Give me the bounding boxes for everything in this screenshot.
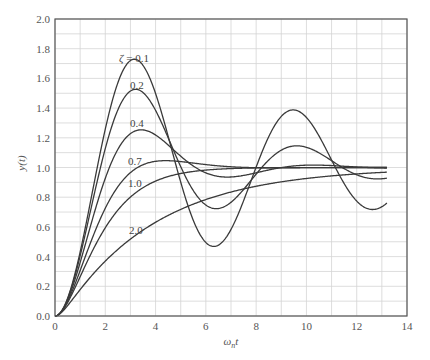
step-response-chart: 0.00.20.40.60.81.01.21.41.61.82.0 024681…	[0, 0, 430, 360]
x-tick-label: 8	[253, 320, 259, 332]
response-curve-zeta-0-1	[55, 59, 387, 316]
response-curve-zeta-0-7	[55, 161, 387, 316]
curve-label: 1.0	[128, 177, 142, 189]
x-tick-label: 12	[351, 320, 362, 332]
curve-label: 0.2	[130, 79, 144, 91]
y-tick-label: 1.6	[36, 72, 50, 84]
y-tick-labels: 0.00.20.40.60.81.01.21.41.61.82.0	[36, 13, 50, 322]
x-tick-label: 6	[203, 320, 209, 332]
y-tick-label: 0.6	[36, 221, 50, 233]
response-curve-zeta-0-4	[55, 130, 387, 316]
curve-label: 2.0	[129, 224, 143, 236]
x-tick-label: 14	[402, 320, 414, 332]
y-tick-label: 1.0	[36, 162, 50, 174]
x-tick-label: 0	[52, 320, 58, 332]
y-tick-label: 1.8	[36, 43, 50, 55]
y-tick-label: 0.4	[36, 251, 50, 263]
curve-label: 0.4	[130, 117, 144, 129]
curve-label: 0.7	[128, 155, 142, 167]
y-tick-label: 1.4	[36, 102, 50, 114]
curves	[55, 59, 387, 316]
x-tick-label: 2	[103, 320, 109, 332]
y-tick-label: 1.2	[36, 132, 50, 144]
y-tick-label: 0.2	[36, 280, 50, 292]
x-axis-title-tail: t	[235, 335, 239, 347]
x-tick-label: 10	[301, 320, 313, 332]
y-axis-title: y(t)	[15, 155, 28, 172]
y-tick-label: 0.8	[36, 191, 50, 203]
y-tick-label: 0.0	[36, 310, 50, 322]
y-tick-label: 2.0	[36, 13, 50, 25]
curve-label: ζ = 0.1	[119, 52, 149, 65]
x-tick-labels: 02468101214	[52, 320, 413, 332]
curve-labels: ζ = 0.10.20.40.71.02.0	[119, 52, 149, 236]
x-axis-title: ωnt	[224, 335, 240, 350]
x-tick-label: 4	[153, 320, 159, 332]
